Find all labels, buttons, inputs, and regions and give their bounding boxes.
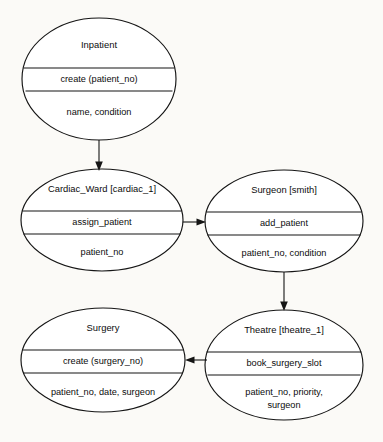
connector-cardiac-ward-to-surgeon (183, 218, 206, 225)
connector-inpatient-to-cardiac-ward (95, 140, 103, 171)
diagram-canvas: Inpatient create (patient_no) name, cond… (0, 0, 383, 442)
node-surgery-operation: create (surgery_no) (63, 356, 143, 366)
node-cardiac-ward-operation: assign_patient (72, 217, 132, 227)
arrowhead-left-icon (185, 356, 195, 363)
node-inpatient-operation: create (patient_no) (60, 74, 137, 84)
node-cardiac-ward-name: Cardiac_Ward [cardiac_1] (48, 183, 156, 194)
node-theatre-name: Theatre [theatre_1] (244, 324, 324, 335)
node-surgeon-name: Surgeon [smith] (251, 184, 317, 195)
node-theatre[interactable]: Theatre [theatre_1] book_surgery_slot pa… (205, 310, 363, 420)
node-surgeon-operation: add_patient (260, 218, 308, 228)
node-inpatient-attributes: name, condition (67, 107, 132, 117)
node-theatre-attributes: patient_no, priority, (245, 387, 322, 397)
node-surgeon-attributes: patient_no, condition (242, 248, 327, 258)
node-inpatient-name: Inpatient (81, 39, 117, 50)
node-theatre-attributes-line2: surgeon (267, 400, 300, 410)
node-inpatient[interactable]: Inpatient create (patient_no) name, cond… (22, 18, 176, 140)
connector-theatre-to-surgery (185, 356, 207, 363)
node-surgery-name: Surgery (87, 322, 120, 333)
connector-surgeon-to-theatre (280, 272, 288, 311)
node-surgeon[interactable]: Surgeon [smith] add_patient patient_no, … (205, 170, 363, 272)
node-surgery-attributes: patient_no, date, surgeon (51, 387, 155, 397)
node-cardiac-ward-attributes: patient_no (81, 247, 124, 257)
node-surgery[interactable]: Surgery create (surgery_no) patient_no, … (21, 308, 185, 412)
node-cardiac-ward[interactable]: Cardiac_Ward [cardiac_1] assign_patient … (21, 169, 183, 271)
node-theatre-operation: book_surgery_slot (246, 358, 322, 368)
